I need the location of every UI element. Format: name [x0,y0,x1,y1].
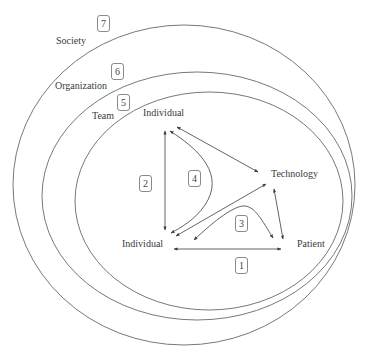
node-individual-top: Individual [143,107,184,119]
organization-ellipse [42,72,352,320]
arrow-individual-technology [177,127,258,172]
level-badge-7: 7 [97,15,110,32]
arrow-technology-individual [176,184,266,236]
label-team: Team [92,110,114,122]
label-organization: Organization [55,80,107,92]
level-badge-6: 6 [111,63,124,80]
interaction-badge-2: 2 [139,175,152,192]
label-society: Society [56,35,86,47]
society-ellipse [13,25,355,345]
interaction-badge-1: 1 [235,257,248,274]
team-ellipse [75,92,343,310]
interaction-badge-4: 4 [188,170,201,187]
arrow-technology-patient [274,189,283,239]
level-badge-5: 5 [117,94,130,111]
interaction-badge-3: 3 [235,215,248,232]
arrow-curved-individual-patient [194,206,273,240]
node-patient: Patient [297,238,325,250]
node-technology: Technology [271,168,318,180]
node-individual-bottom: Individual [122,238,163,250]
